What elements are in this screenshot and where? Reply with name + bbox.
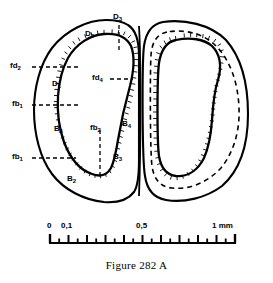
scale-label-0: 0 [47,222,51,230]
label-fb1-upper: fb1 [12,100,23,108]
scale-label-0-5: 0,5 [136,222,147,230]
label-b1: B1 [54,125,63,133]
label-b2: B2 [67,175,76,183]
scale-label-1-mm: 1 mm [212,222,233,230]
right-valve-dashed-line [150,31,239,188]
label-fd2: fd2 [10,62,21,70]
figure-container: fd2 fb1 fb1 D3 D2 D1 fd4 fb2 B1 B2 B3 B4… [0,0,273,283]
label-fd4: fd4 [92,74,103,82]
label-b4: B4 [122,120,131,128]
label-d2: D2 [85,30,94,38]
label-b3: B3 [113,153,122,161]
label-d1: D1 [52,80,61,88]
label-fb2: fb2 [90,124,101,132]
scale-label-0-1: 0,1 [61,222,72,230]
label-d3: D3 [113,13,122,21]
label-fb1-lower: fb1 [12,153,23,161]
scale-bar [49,234,236,243]
valve-diagram [0,0,273,283]
right-valve-inner-lamella [158,39,221,176]
figure-caption: Figure 282 A [0,259,273,271]
